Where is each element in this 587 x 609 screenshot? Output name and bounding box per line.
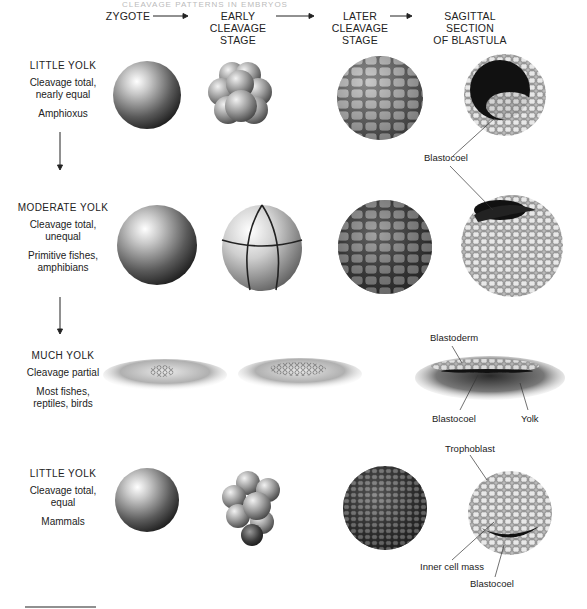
row-down-arrows [58,132,63,334]
early-cleavage-mammal [222,471,280,546]
later-cleavage-amphioxus [337,56,423,140]
early-cleavage-amphioxus [208,62,272,124]
zygote-moderate-yolk [117,205,197,285]
diagram-illustrations [0,0,587,609]
blastula-section-moderate-yolk [461,195,563,297]
zygote-amphioxus [113,61,181,129]
later-cleavage-much-yolk-blastoderm [415,356,565,400]
stage-arrows [153,14,412,19]
early-cleavage-much-yolk [238,358,362,390]
early-cleavage-moderate-yolk [222,205,302,291]
zygote-much-yolk [103,359,227,391]
later-cleavage-mammal [343,466,427,550]
blastula-section-mammal [468,471,552,555]
zygote-mammal [115,468,179,532]
blastula-section-amphioxus [464,54,546,136]
later-cleavage-moderate-yolk [338,200,432,294]
